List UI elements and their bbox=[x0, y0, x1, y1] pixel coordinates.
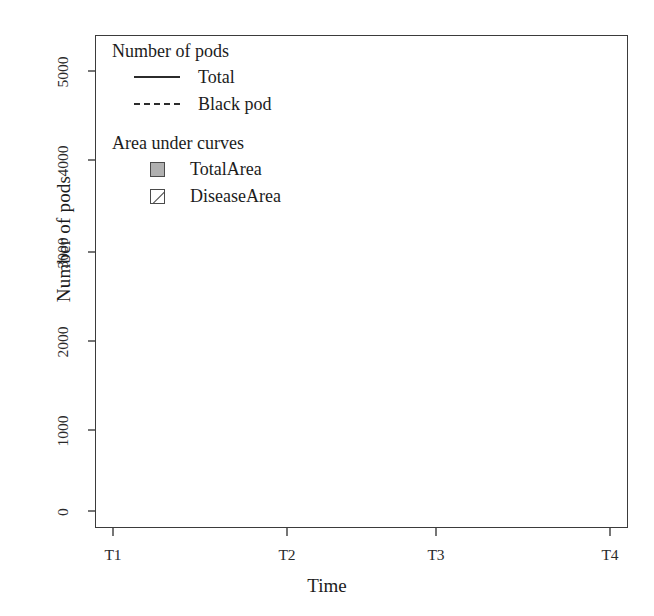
legend-item-total-area: TotalArea bbox=[112, 156, 372, 183]
hatched-square-key bbox=[134, 186, 180, 206]
legend-item-disease-area: DiseaseArea bbox=[112, 183, 372, 210]
solid-line-key bbox=[134, 67, 188, 87]
y-axis-ticks bbox=[88, 71, 95, 511]
filled-square-key bbox=[134, 159, 180, 179]
chart-figure: Number of pods 0 1000 2000 3000 4000 500… bbox=[0, 0, 654, 616]
chart-legend: Number of pods Total Black pod Area unde… bbox=[112, 40, 372, 210]
x-axis-ticks bbox=[113, 528, 610, 536]
legend-item-total: Total bbox=[112, 64, 372, 91]
legend-label-total-area: TotalArea bbox=[180, 159, 262, 180]
legend-group-title-area-under-curves: Area under curves bbox=[112, 132, 372, 156]
dashed-line-key bbox=[134, 94, 188, 114]
legend-label-disease-area: DiseaseArea bbox=[180, 186, 281, 207]
legend-label-total: Total bbox=[188, 67, 235, 88]
legend-item-black-pod: Black pod bbox=[112, 91, 372, 118]
legend-label-black-pod: Black pod bbox=[188, 94, 272, 115]
legend-group-title-number-of-pods: Number of pods bbox=[112, 40, 372, 64]
